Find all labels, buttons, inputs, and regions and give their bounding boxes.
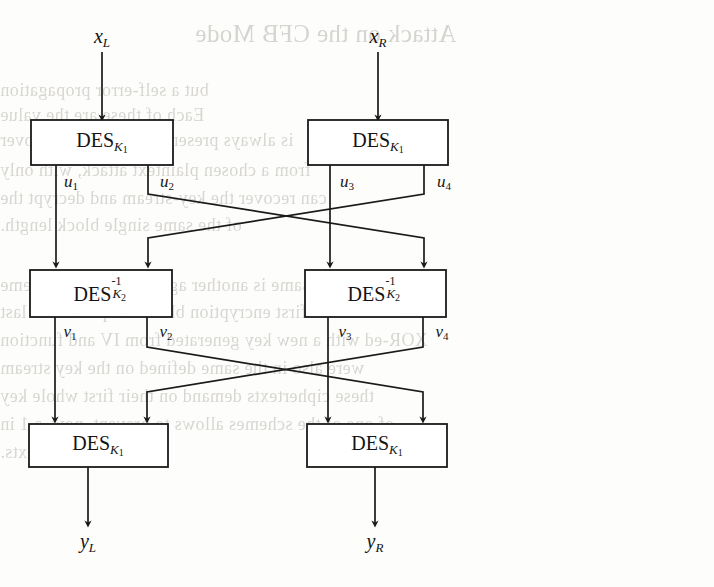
wire-label-u2: u2 bbox=[160, 172, 174, 193]
cipher-box-label-des-top-right: DESK1 bbox=[352, 129, 403, 155]
wire-label-main: v bbox=[338, 322, 346, 341]
wire-label-main: v bbox=[63, 322, 71, 341]
input-label-main: x bbox=[94, 25, 103, 47]
cipher-box-label-des-bottom-right: DESK1 bbox=[351, 432, 402, 458]
cipher-box-name: DES bbox=[352, 129, 390, 151]
cipher-box-label-des-top-left: DESK1 bbox=[76, 129, 127, 155]
wire-label-main: v bbox=[435, 322, 443, 341]
cipher-box-label-des-inv-mid-left: DES-1K2 bbox=[74, 281, 129, 306]
wire-label-main: u bbox=[437, 172, 446, 191]
input-label-main: x bbox=[370, 25, 379, 47]
wire-label-sub: 3 bbox=[346, 330, 352, 342]
figure-page: Attack on the CFB Modebut a self-error p… bbox=[0, 0, 714, 587]
cipher-box-label-des-bottom-left: DESK1 bbox=[72, 432, 123, 458]
wire-label-sub: 4 bbox=[443, 330, 449, 342]
output-label-main: y bbox=[80, 530, 89, 552]
wire-label-sub: 2 bbox=[167, 330, 173, 342]
cipher-box-name: DES bbox=[72, 432, 110, 454]
wire-label-u1: u1 bbox=[64, 172, 78, 193]
cipher-box-inverse-key-stack: -1K2 bbox=[385, 281, 402, 301]
diagram-labels-layer: DESK1DESK1DES-1K2DES-1K2DESK1DESK1xLxRyL… bbox=[0, 0, 714, 587]
input-label-xL: xL bbox=[94, 25, 110, 51]
wire-label-sub: 3 bbox=[349, 180, 355, 192]
cipher-box-key-subscript: K1 bbox=[390, 139, 404, 154]
wire-label-sub: 1 bbox=[73, 180, 79, 192]
cipher-box-name: DES bbox=[351, 432, 389, 454]
cipher-box-key-subscript: K2 bbox=[112, 286, 126, 303]
cipher-box-name: DES bbox=[348, 283, 386, 305]
wire-label-main: u bbox=[340, 172, 349, 191]
output-label-yL: yL bbox=[80, 530, 96, 556]
cipher-box-key-subscript: K1 bbox=[114, 139, 128, 154]
input-label-xR: xR bbox=[370, 25, 387, 51]
cipher-box-inverse-key-stack: -1K2 bbox=[111, 281, 128, 301]
cipher-box-label-des-inv-mid-right: DES-1K2 bbox=[348, 281, 403, 306]
cipher-box-key-subscript: K2 bbox=[386, 286, 400, 303]
output-label-sub: L bbox=[89, 540, 96, 555]
wire-label-v1: v1 bbox=[63, 322, 76, 343]
wire-label-u4: u4 bbox=[437, 172, 451, 193]
wire-label-v4: v4 bbox=[435, 322, 448, 343]
wire-label-main: u bbox=[64, 172, 73, 191]
cipher-box-name: DES bbox=[74, 283, 112, 305]
output-label-yR: yR bbox=[367, 530, 384, 556]
wire-label-sub: 2 bbox=[169, 180, 175, 192]
wire-label-main: v bbox=[159, 322, 167, 341]
wire-label-sub: 4 bbox=[446, 180, 452, 192]
cipher-box-key-subscript: K1 bbox=[110, 442, 124, 457]
output-label-main: y bbox=[367, 530, 376, 552]
wire-label-u3: u3 bbox=[340, 172, 354, 193]
wire-label-main: u bbox=[160, 172, 169, 191]
cipher-box-key-subscript: K1 bbox=[389, 442, 403, 457]
output-label-sub: R bbox=[375, 540, 383, 555]
wire-label-v3: v3 bbox=[338, 322, 351, 343]
wire-label-v2: v2 bbox=[159, 322, 172, 343]
input-label-sub: R bbox=[378, 35, 386, 50]
input-label-sub: L bbox=[103, 35, 110, 50]
wire-label-sub: 1 bbox=[71, 330, 77, 342]
cipher-box-name: DES bbox=[76, 129, 114, 151]
